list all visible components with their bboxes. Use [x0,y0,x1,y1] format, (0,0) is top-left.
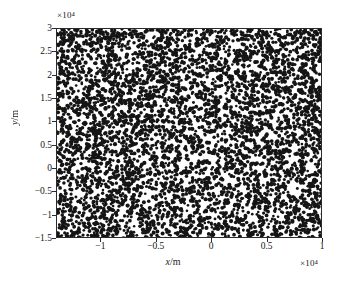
y-axis-exponent-label: ×10⁴ [57,10,75,20]
y-tick-label: −1.5 [35,233,52,243]
y-tick-mark [52,191,56,192]
scatter-plot-canvas [57,29,322,238]
y-tick-label: −0.5 [35,186,52,196]
y-tick-mark [52,145,56,146]
x-tick-label: 1 [320,241,325,251]
scatter-figure: ×10⁴ −1.5−1−0.500.511.522.53 −1−0.500.51… [0,0,346,284]
x-tick-mark [156,238,157,242]
y-tick-mark [52,238,56,239]
x-tick-label: 0 [209,241,214,251]
x-tick-label: −1 [95,241,105,251]
y-tick-mark [52,51,56,52]
y-tick-mark [52,75,56,76]
plot-area [56,28,322,238]
x-tick-mark [267,238,268,242]
y-tick-label: 1.5 [40,93,52,103]
x-tick-mark [100,238,101,242]
y-tick-label: 0.5 [40,140,52,150]
x-tick-label: −0.5 [147,241,164,251]
y-tick-label: 2.5 [40,46,52,56]
x-axis-exponent-label: ×10⁴ [300,258,318,268]
y-tick-mark [52,215,56,216]
y-tick-mark [52,98,56,99]
y-axis-title: y/m [9,110,20,125]
x-tick-label: 0.5 [261,241,273,251]
y-tick-label: −1 [42,210,52,220]
y-tick-mark [52,121,56,122]
x-tick-mark [211,238,212,242]
x-axis-title: x/m [0,256,346,267]
y-tick-mark [52,28,56,29]
x-tick-mark [322,238,323,242]
y-tick-mark [52,168,56,169]
